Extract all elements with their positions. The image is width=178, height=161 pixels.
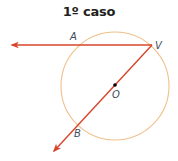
- center-point-o: [113, 83, 117, 87]
- label-o: O: [112, 89, 120, 100]
- label-b: B: [74, 128, 81, 139]
- label-v: V: [155, 40, 163, 51]
- label-a: A: [69, 31, 77, 42]
- geometry-figure: A V O B: [0, 0, 178, 161]
